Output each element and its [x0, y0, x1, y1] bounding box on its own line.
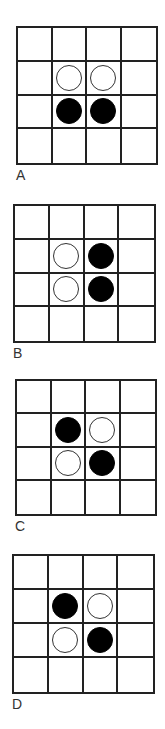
- board-cell: [18, 28, 53, 62]
- game-board: [12, 554, 155, 694]
- board-cell: [118, 556, 153, 590]
- board-cell: [85, 274, 120, 308]
- board-cell: [87, 96, 122, 130]
- black-piece-icon: [88, 243, 114, 269]
- option-label: C: [15, 519, 25, 533]
- board-cell: [53, 28, 88, 62]
- board-cell: [86, 414, 121, 447]
- black-piece-icon: [52, 593, 78, 619]
- board-cell: [50, 206, 85, 240]
- board-cell: [84, 658, 119, 692]
- white-piece-icon: [53, 243, 79, 269]
- board-cell: [49, 590, 84, 624]
- black-piece-icon: [56, 98, 82, 124]
- black-piece-icon: [55, 417, 81, 443]
- board-cell: [14, 624, 49, 658]
- board-cell: [121, 448, 156, 481]
- board-cell: [14, 658, 49, 692]
- white-piece-icon: [87, 593, 113, 619]
- option-label: A: [16, 168, 25, 182]
- black-piece-icon: [88, 276, 114, 302]
- board-cell: [17, 448, 52, 481]
- board-cell: [50, 274, 85, 308]
- board-cell: [84, 624, 119, 658]
- board-cell: [53, 96, 88, 130]
- board-cell: [121, 414, 156, 447]
- white-piece-icon: [89, 417, 115, 443]
- board-cell: [50, 307, 85, 341]
- board-cell: [119, 307, 154, 341]
- board-cell: [17, 414, 52, 447]
- board-cell: [87, 62, 122, 96]
- board-cell: [118, 590, 153, 624]
- board-cell: [86, 381, 121, 414]
- white-piece-icon: [52, 627, 78, 653]
- board-cell: [18, 96, 53, 130]
- board-cell: [52, 414, 87, 447]
- board-cell: [53, 129, 88, 163]
- board-cell: [52, 448, 87, 481]
- board-cell: [17, 481, 52, 514]
- board-cell: [86, 481, 121, 514]
- option-label: D: [12, 697, 22, 711]
- board-cell: [119, 274, 154, 308]
- board-cell: [85, 206, 120, 240]
- game-board: [13, 204, 156, 343]
- board-cell: [50, 240, 85, 274]
- board-cell: [118, 658, 153, 692]
- board-cell: [86, 448, 121, 481]
- board-cell: [49, 624, 84, 658]
- board-cell: [122, 28, 157, 62]
- board-cell: [85, 240, 120, 274]
- black-piece-icon: [90, 98, 116, 124]
- board-cell: [15, 274, 50, 308]
- black-piece-icon: [87, 627, 113, 653]
- board-cell: [14, 556, 49, 590]
- board-cell: [18, 62, 53, 96]
- option-label: B: [13, 346, 22, 360]
- board-cell: [49, 556, 84, 590]
- board-cell: [119, 240, 154, 274]
- game-board: [16, 26, 158, 165]
- board-cell: [85, 307, 120, 341]
- board-cell: [15, 240, 50, 274]
- board-cell: [87, 28, 122, 62]
- board-cell: [52, 481, 87, 514]
- board-cell: [15, 307, 50, 341]
- board-cell: [52, 381, 87, 414]
- white-piece-icon: [90, 65, 116, 91]
- black-piece-icon: [89, 450, 115, 476]
- board-cell: [18, 129, 53, 163]
- board-cell: [121, 481, 156, 514]
- board-cell: [122, 129, 157, 163]
- board-cell: [87, 129, 122, 163]
- board-cell: [14, 590, 49, 624]
- board-cell: [84, 590, 119, 624]
- white-piece-icon: [55, 450, 81, 476]
- board-cell: [17, 381, 52, 414]
- board-cell: [119, 206, 154, 240]
- board-cell: [84, 556, 119, 590]
- board-cell: [49, 658, 84, 692]
- board-cell: [118, 624, 153, 658]
- board-cell: [122, 62, 157, 96]
- board-cell: [121, 381, 156, 414]
- board-cell: [122, 96, 157, 130]
- white-piece-icon: [56, 65, 82, 91]
- game-board: [15, 379, 157, 516]
- white-piece-icon: [53, 276, 79, 302]
- board-cell: [53, 62, 88, 96]
- board-cell: [15, 206, 50, 240]
